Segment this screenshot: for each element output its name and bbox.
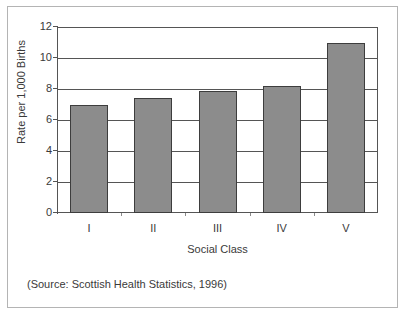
y-axis-title: Rate per 1,000 Births (15, 27, 27, 157)
y-tick-label-2: 2 (46, 176, 52, 187)
y-tick-mark-0 (53, 212, 58, 213)
y-axis-tick-labels: 024681012 (24, 27, 52, 213)
x-tick-mark-2 (185, 213, 186, 216)
x-tick-mark-4 (314, 213, 315, 216)
x-tick-label-IV: IV (257, 222, 307, 234)
y-tick-mark-2 (53, 181, 58, 182)
bar-III (199, 91, 237, 213)
y-tick-label-4: 4 (46, 145, 52, 156)
y-tick-label-10: 10 (40, 52, 52, 63)
figure: 024681012 Rate per 1,000 Births Social C… (0, 0, 405, 316)
x-tick-mark-1 (121, 213, 122, 216)
x-axis-title: Social Class (57, 243, 378, 255)
y-tick-mark-10 (53, 57, 58, 58)
x-tick-label-II: II (128, 222, 178, 234)
x-tick-label-I: I (64, 222, 114, 234)
y-tick-label-8: 8 (46, 83, 52, 94)
x-tick-mark-3 (250, 213, 251, 216)
bar-I (70, 105, 108, 214)
source-note: (Source: Scottish Health Statistics, 199… (27, 278, 227, 290)
y-tick-mark-12 (53, 26, 58, 27)
y-tick-label-12: 12 (40, 21, 52, 32)
bars-layer (57, 27, 378, 213)
bar-II (134, 98, 172, 213)
bar-IV (263, 86, 301, 213)
y-tick-label-0: 0 (46, 207, 52, 218)
x-tick-label-III: III (193, 222, 243, 234)
x-tick-label-V: V (321, 222, 371, 234)
bar-V (327, 43, 365, 214)
y-tick-mark-6 (53, 119, 58, 120)
y-tick-marks (52, 27, 58, 213)
y-tick-label-6: 6 (46, 114, 52, 125)
y-tick-mark-8 (53, 88, 58, 89)
y-tick-mark-4 (53, 150, 58, 151)
